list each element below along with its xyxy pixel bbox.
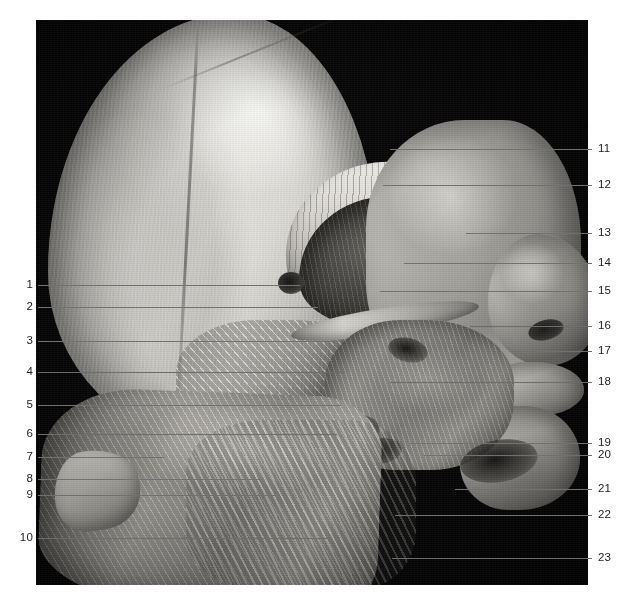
label-number-23: 23 <box>598 552 611 564</box>
label-number-18: 18 <box>598 376 611 388</box>
label-number-14: 14 <box>598 257 611 269</box>
label-number-15: 15 <box>598 285 611 297</box>
label-number-7: 7 <box>0 451 33 463</box>
label-number-21: 21 <box>598 483 611 495</box>
label-number-22: 22 <box>598 509 611 521</box>
masseter-fibre-band <box>186 420 416 585</box>
label-number-19: 19 <box>598 437 611 449</box>
label-number-6: 6 <box>0 428 33 440</box>
label-number-2: 2 <box>0 301 33 313</box>
label-number-17: 17 <box>598 345 611 357</box>
label-number-10: 10 <box>0 532 33 544</box>
label-number-8: 8 <box>0 473 33 485</box>
label-number-1: 1 <box>0 279 33 291</box>
label-number-12: 12 <box>598 179 611 191</box>
label-number-11: 11 <box>598 143 610 155</box>
label-number-16: 16 <box>598 320 611 332</box>
label-number-5: 5 <box>0 399 33 411</box>
label-number-9: 9 <box>0 489 33 501</box>
acoustic-meatus-shadow <box>278 272 304 294</box>
dissection-photograph <box>36 20 588 585</box>
nose-region <box>488 234 588 366</box>
label-number-4: 4 <box>0 366 33 378</box>
label-number-20: 20 <box>598 449 611 461</box>
label-number-3: 3 <box>0 335 33 347</box>
label-number-13: 13 <box>598 227 611 239</box>
anatomical-figure: 1234567891011121314151617181920212223 <box>0 0 629 604</box>
